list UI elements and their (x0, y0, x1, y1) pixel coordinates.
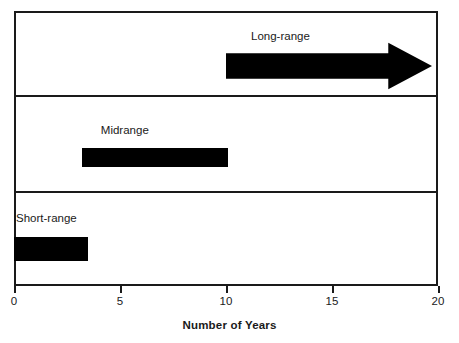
x-axis-tick-label: 0 (0, 295, 34, 308)
x-axis-tick (332, 286, 334, 293)
bar-midrange (82, 148, 228, 167)
x-axis-tick (120, 286, 122, 293)
panel-divider-bottom (14, 191, 438, 193)
x-axis-tick (14, 286, 16, 293)
long-range-arrow (226, 42, 432, 90)
series-label-midrange: Midrange (101, 124, 149, 137)
bar-short-range (14, 237, 88, 261)
x-axis-tick (226, 286, 228, 293)
planning-horizon-chart: Long-range Midrange Short-range 05101520… (0, 0, 459, 343)
panel-divider-top (14, 95, 438, 97)
x-axis-tick-label: 10 (206, 295, 246, 308)
series-label-short-range: Short-range (16, 212, 77, 225)
x-axis-tick-label: 5 (100, 295, 140, 308)
x-axis-title: Number of Years (0, 319, 459, 331)
x-axis-tick-label: 20 (418, 295, 458, 308)
x-axis-tick (438, 286, 440, 293)
x-axis-tick-label: 15 (312, 295, 352, 308)
